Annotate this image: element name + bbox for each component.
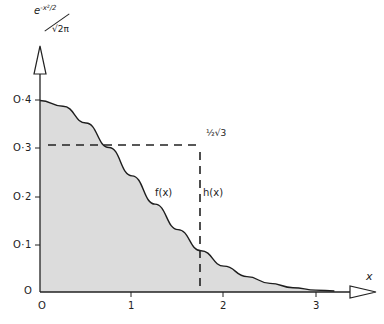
x-axis-arrow-icon (350, 286, 376, 298)
x-tick-label-0: O (38, 300, 46, 311)
half-sqrt3-label: ½√3 (206, 128, 226, 138)
x-ticks (131, 292, 316, 297)
y-tick-label-0: O (24, 285, 32, 296)
y-tick-label-0.2: O·2 (13, 191, 32, 202)
h-of-x-label: h(x) (203, 187, 223, 198)
y-ticks (35, 100, 40, 245)
normal-curve-chart (0, 0, 384, 324)
y-tick-label-0.4: O·4 (13, 94, 32, 105)
y-axis-label-numerator: e-x²/2 (34, 4, 56, 16)
y-axis-arrow-icon (34, 46, 46, 74)
x-axis-label: x (366, 270, 373, 283)
y-axis-label: e-x²/2 √2π (32, 2, 82, 42)
y-axis-label-denominator: √2π (52, 24, 69, 34)
x-tick-label-3: 3 (313, 300, 320, 311)
y-tick-label-0.3: O·3 (13, 142, 32, 153)
x-tick-label-1: 1 (128, 300, 135, 311)
y-tick-label-0.1: O·1 (13, 239, 32, 250)
f-of-x-label: f(x) (155, 187, 172, 198)
shaded-area (40, 100, 334, 292)
x-tick-label-2: 2 (220, 300, 227, 311)
